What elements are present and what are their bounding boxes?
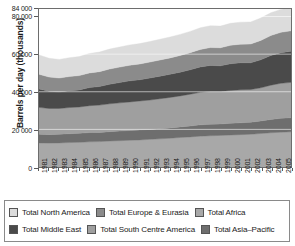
x-tick-label: 1998 xyxy=(214,158,221,173)
x-tick-label: 2004 xyxy=(275,158,282,173)
x-tick-mark xyxy=(109,168,110,171)
stacked-area-chart: Barrels per day (thousands) 020 00040 00… xyxy=(0,0,295,196)
x-tick-mark xyxy=(272,168,273,171)
x-tick-label: 1994 xyxy=(173,158,180,173)
legend-swatch xyxy=(9,225,18,234)
x-tick-mark xyxy=(231,168,232,171)
x-tick-label: 1988 xyxy=(112,158,119,173)
x-tick-mark xyxy=(282,168,283,171)
legend-item[interactable]: Total South Centre America xyxy=(87,225,195,234)
x-tick-label: 2001 xyxy=(244,158,251,173)
legend-item[interactable]: Total Europe & Eurasia xyxy=(96,208,189,217)
legend-label: Total Asia–Pacific xyxy=(214,225,274,234)
y-tick-label: 20 000 xyxy=(12,126,32,133)
legend-item[interactable]: Total Africa xyxy=(195,208,246,217)
x-tick-mark xyxy=(38,168,39,171)
x-tick-label: 1990 xyxy=(132,158,139,173)
x-tick-label: 1984 xyxy=(71,158,78,173)
x-tick-label: 1999 xyxy=(224,158,231,173)
y-axis-ticks: 020 00040 00060 00080 00084 000 xyxy=(0,0,38,176)
x-tick-mark xyxy=(292,168,293,171)
x-tick-mark xyxy=(170,168,171,171)
x-tick-label: 2000 xyxy=(234,158,241,173)
x-tick-mark xyxy=(160,168,161,171)
y-tick-label: 40 000 xyxy=(12,88,32,95)
x-tick-mark xyxy=(180,168,181,171)
x-tick-label: 1991 xyxy=(143,158,150,173)
legend-swatch xyxy=(87,225,96,234)
legend-label: Total Middle East xyxy=(22,225,81,234)
legend-swatch xyxy=(195,208,204,217)
x-tick-mark xyxy=(221,168,222,171)
x-tick-label: 1981 xyxy=(41,158,48,173)
x-tick-mark xyxy=(201,168,202,171)
x-tick-mark xyxy=(251,168,252,171)
legend-item[interactable]: Total Middle East xyxy=(9,225,81,234)
chart-legend: Total North AmericaTotal Europe & Eurasi… xyxy=(4,200,290,242)
x-tick-label: 2003 xyxy=(265,158,272,173)
x-tick-mark xyxy=(68,168,69,171)
legend-label: Total North America xyxy=(22,208,90,217)
x-tick-label: 1985 xyxy=(82,158,89,173)
legend-row: Total Middle EastTotal South Centre Amer… xyxy=(9,221,285,238)
legend-label: Total South Centre America xyxy=(100,225,195,234)
legend-item[interactable]: Total North America xyxy=(9,208,90,217)
y-tick-label: 60 000 xyxy=(12,50,32,57)
x-tick-label: 1986 xyxy=(92,158,99,173)
x-tick-label: 1997 xyxy=(204,158,211,173)
x-axis-ticks: 1981198219831984198519861987198819891990… xyxy=(38,168,292,196)
legend-swatch xyxy=(96,208,105,217)
x-tick-mark xyxy=(129,168,130,171)
legend-label: Total Europe & Eurasia xyxy=(109,208,189,217)
x-tick-label: 1996 xyxy=(193,158,200,173)
x-tick-mark xyxy=(190,168,191,171)
x-tick-label: 1995 xyxy=(183,158,190,173)
x-tick-label: 1992 xyxy=(153,158,160,173)
legend-row: Total North AmericaTotal Europe & Eurasi… xyxy=(9,204,285,221)
x-tick-mark xyxy=(211,168,212,171)
x-tick-label: 1982 xyxy=(51,158,58,173)
x-tick-mark xyxy=(262,168,263,171)
x-tick-label: 2002 xyxy=(254,158,261,173)
legend-swatch xyxy=(201,225,210,234)
stacked-area-series xyxy=(39,9,291,167)
x-tick-mark xyxy=(119,168,120,171)
x-tick-label: 1983 xyxy=(61,158,68,173)
chart-screenshot: Barrels per day (thousands) 020 00040 00… xyxy=(0,0,295,246)
x-tick-mark xyxy=(48,168,49,171)
x-tick-mark xyxy=(99,168,100,171)
x-tick-label: 2005 xyxy=(285,158,292,173)
x-tick-mark xyxy=(150,168,151,171)
legend-label: Total Africa xyxy=(208,208,246,217)
x-tick-mark xyxy=(241,168,242,171)
legend-item[interactable]: Total Asia–Pacific xyxy=(201,225,274,234)
y-tick-label: 84 000 xyxy=(12,5,32,12)
y-tick-label: 0 xyxy=(28,165,32,172)
x-tick-mark xyxy=(58,168,59,171)
x-tick-label: 1987 xyxy=(102,158,109,173)
x-tick-label: 1989 xyxy=(122,158,129,173)
legend-swatch xyxy=(9,208,18,217)
y-tick-label: 80 000 xyxy=(12,12,32,19)
x-tick-mark xyxy=(140,168,141,171)
x-tick-mark xyxy=(89,168,90,171)
x-tick-label: 1993 xyxy=(163,158,170,173)
x-tick-mark xyxy=(79,168,80,171)
plot-area xyxy=(38,8,292,168)
